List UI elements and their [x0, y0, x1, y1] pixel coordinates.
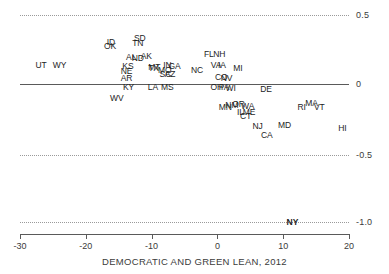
gridline-minus-1-0: [20, 222, 349, 223]
state-label-wi: WI: [225, 83, 235, 93]
state-label-hi: HI: [338, 123, 346, 133]
x-axis-line: [20, 234, 349, 235]
state-label-ut: UT: [35, 60, 46, 70]
state-label-ia: IA: [218, 60, 226, 70]
x-tick: [283, 234, 284, 239]
scatter-chart: 0.5 0 -0.5 -1.0 UTWYIDOKSDTNALNDAKKSNEAR…: [0, 0, 389, 274]
y-tick-label: 0: [356, 79, 361, 89]
state-label-md: MD: [278, 120, 291, 130]
x-tick: [152, 234, 153, 239]
axis-zero-line: [20, 84, 349, 85]
x-tick-label: 10: [278, 241, 288, 251]
x-tick: [86, 234, 87, 239]
x-tick-label: 0: [215, 241, 220, 251]
gridline-minus-0-5: [20, 155, 349, 156]
state-label-nc: NC: [191, 65, 203, 75]
y-tick-label: -0.5: [356, 150, 372, 160]
state-label-ms: MS: [161, 82, 174, 92]
state-label-nh: NH: [213, 49, 225, 59]
state-label-fl: FL: [204, 49, 214, 59]
gridline-0-5: [20, 15, 349, 16]
x-tick-label: -10: [145, 241, 158, 251]
x-tick: [349, 234, 350, 239]
state-label-ct: CT: [240, 111, 251, 121]
state-label-ok: OK: [104, 41, 116, 51]
state-label-az: AZ: [165, 69, 176, 79]
x-tick-label: -20: [79, 241, 92, 251]
state-label-tn: TN: [132, 38, 143, 48]
state-label-de: DE: [260, 84, 272, 94]
state-label-ca: CA: [261, 130, 273, 140]
x-tick: [217, 234, 218, 239]
state-label-la: LA: [148, 82, 158, 92]
state-label-wy: WY: [53, 60, 67, 70]
state-label-ri: RI: [297, 102, 305, 112]
y-tick-label: -1.0: [356, 217, 372, 227]
x-tick: [20, 234, 21, 239]
state-label-vt: VT: [314, 102, 325, 112]
state-label-ky: KY: [123, 82, 134, 92]
x-tick-label: -30: [13, 241, 26, 251]
state-label-ar: AR: [121, 73, 133, 83]
state-label-ny: NY: [287, 217, 299, 227]
state-label-ak: AK: [141, 51, 152, 61]
state-label-wv: WV: [110, 93, 124, 103]
state-label-mi: MI: [233, 63, 242, 73]
y-tick-label: 0.5: [356, 10, 369, 20]
x-tick-label: 20: [344, 241, 354, 251]
x-axis-title: DEMOCRATIC AND GREEN LEAN, 2012: [0, 256, 389, 267]
